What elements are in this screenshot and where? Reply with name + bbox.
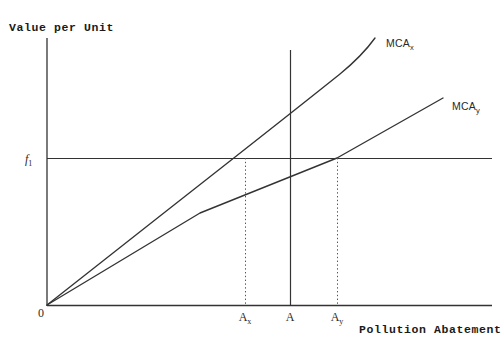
tick-label-ax-base: A [239, 310, 248, 324]
curve-label-mca-y-base: MCA [452, 100, 476, 112]
economics-diagram: Value per Unit Pollution Abatement MCAx … [0, 0, 503, 353]
tick-label-ay-base: A [331, 310, 340, 324]
tick-label-ax-subscript: x [247, 317, 251, 326]
curve-mca-y [47, 98, 443, 305]
tick-label-a: A [286, 311, 295, 323]
curve-label-mca-x-subscript: x [410, 43, 414, 52]
plot-canvas [0, 0, 503, 353]
tick-label-ax: Ax [239, 311, 252, 323]
curve-label-mca-y-subscript: y [476, 106, 480, 115]
x-axis-title: Pollution Abatement [359, 324, 502, 336]
curve-label-mca-x-base: MCA [386, 37, 410, 49]
tick-label-ay-subscript: y [339, 317, 343, 326]
price-level-label-subscript: 1 [28, 159, 32, 168]
y-axis-title: Value per Unit [9, 22, 114, 34]
origin-label: 0 [38, 307, 44, 319]
price-level-label-f1: f1 [25, 153, 32, 165]
curve-label-mca-x: MCAx [386, 38, 414, 49]
tick-label-a-base: A [286, 310, 295, 324]
tick-label-ay: Ay [331, 311, 344, 323]
curve-label-mca-y: MCAy [452, 101, 480, 112]
curve-mca-x [47, 38, 375, 305]
